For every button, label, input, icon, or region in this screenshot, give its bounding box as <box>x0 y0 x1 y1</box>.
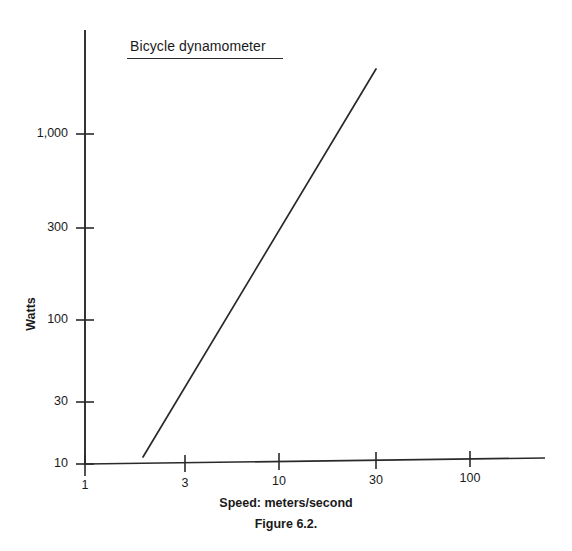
x-axis-tick-label-1: 1 <box>65 478 105 492</box>
x-axis-tick-label-30: 30 <box>356 473 396 487</box>
y-axis-tick-label-100: 100 <box>8 312 68 326</box>
y-axis-tick-label-30: 30 <box>8 394 68 408</box>
plot-canvas <box>0 0 572 551</box>
data-line-power-curve <box>143 69 376 457</box>
chart-title-underline <box>127 58 283 59</box>
x-axis-tick-label-10: 10 <box>259 474 299 488</box>
x-axis-label: Speed: meters/second <box>0 496 572 510</box>
y-axis-label: Watts <box>24 274 38 354</box>
chart-title: Bicycle dynamometer <box>130 38 266 54</box>
x-axis-line <box>85 458 545 464</box>
y-axis-tick-label-300: 300 <box>8 220 68 234</box>
figure-caption: Figure 6.2. <box>0 517 572 531</box>
x-axis-tick-label-3: 3 <box>165 476 205 490</box>
figure-page: Bicycle dynamometer 1,000 300 100 30 10 … <box>0 0 572 551</box>
x-axis-tick-label-100: 100 <box>450 471 490 485</box>
y-axis-tick-label-10: 10 <box>8 456 68 470</box>
y-axis-tick-label-1000: 1,000 <box>8 126 68 140</box>
